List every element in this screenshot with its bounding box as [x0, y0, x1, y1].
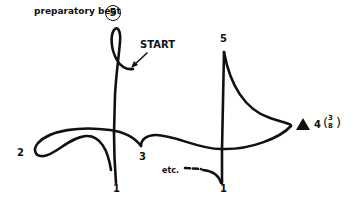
start-label: START	[140, 40, 175, 50]
fraction-numerator: 3	[328, 114, 333, 122]
conducting-pattern-diagram: preparatory beat 5 START 5 2 3 1 1 etc. …	[0, 0, 355, 200]
etc-continuation-path	[203, 170, 221, 183]
downbeat-stroke-path	[114, 133, 116, 183]
beat-5-vertical-path	[222, 52, 224, 183]
beat-5-to-4-path	[222, 52, 291, 149]
beat-4-fraction: 3 8	[328, 114, 333, 130]
beat-5-label: 5	[220, 34, 227, 44]
beat-2-label: 2	[17, 148, 24, 158]
beat-4-label: 4	[314, 120, 321, 130]
beat-1-label-repeat: 1	[220, 184, 227, 194]
beat-1-label-first: 1	[113, 184, 120, 194]
beat-3-label: 3	[139, 152, 146, 162]
beat-1-to-2-path	[35, 129, 141, 170]
fraction-close-paren: )	[336, 115, 341, 130]
beat-2-to-3-path	[141, 135, 222, 149]
etc-label: etc.	[162, 167, 179, 175]
preparatory-beat-number-circled: 5	[105, 5, 121, 21]
preparatory-loop-path	[112, 28, 133, 133]
beat-4-triangle-icon	[296, 118, 310, 130]
etc-dashed-path	[185, 168, 201, 169]
fraction-denominator: 8	[328, 122, 333, 130]
